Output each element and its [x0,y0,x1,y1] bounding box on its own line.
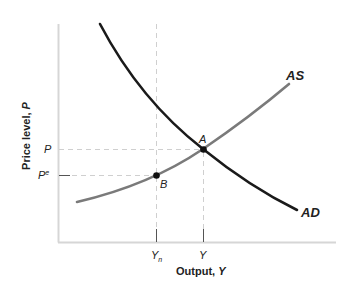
ad-curve [100,24,297,210]
y-axis-title: Price level, P [20,101,32,170]
point-b-label: B [160,178,167,190]
ad-curve-label: AD [300,205,320,220]
point-a-marker [200,146,207,153]
x-axis-title: Output, Y [176,265,227,277]
point-b-marker [153,172,160,179]
y-tick-label-pe: Pe [38,169,49,181]
x-tick-label-yn: Yn [151,249,162,263]
x-tick-label-y: Y [199,249,207,261]
as-ad-diagram: AS AD A B P Pe Yn Y Output, Y Price leve… [0,0,351,291]
point-a-label: A [198,133,206,145]
pe-superscript: e [45,169,49,176]
yn-subscript: n [158,256,162,263]
as-curve [77,84,289,202]
guide-lines [59,24,204,242]
as-curve-label: AS [285,68,304,83]
y-tick-label-p: P [44,143,52,155]
